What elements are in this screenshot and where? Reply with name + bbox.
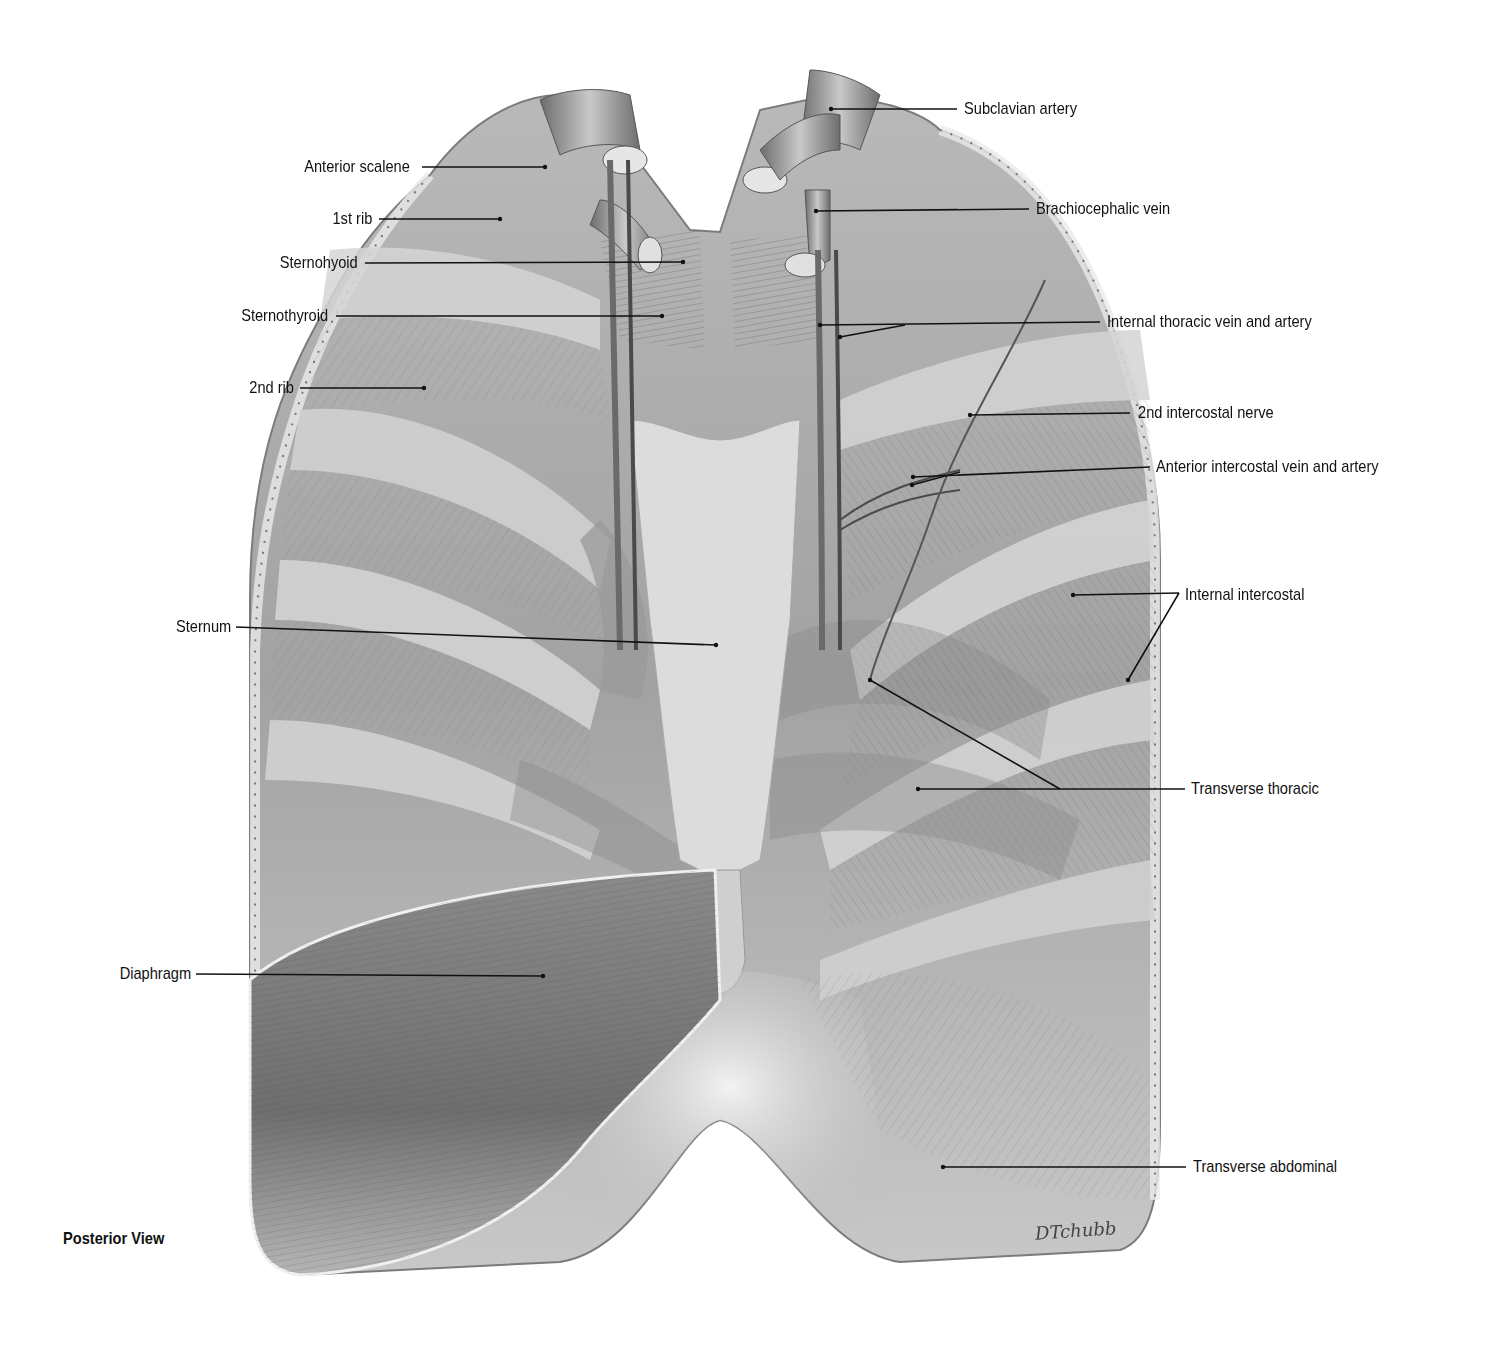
label-sternum: Sternum bbox=[176, 617, 231, 637]
label-brachiocephalic-vein: Brachiocephalic vein bbox=[1036, 199, 1170, 219]
label-2nd-rib: 2nd rib bbox=[249, 378, 294, 398]
label-subclavian-artery: Subclavian artery bbox=[964, 99, 1077, 119]
label-1st-rib: 1st rib bbox=[332, 209, 372, 229]
label-internal-intercostal: Internal intercostal bbox=[1185, 585, 1304, 605]
label-internal-thoracic-vein-artery: Internal thoracic vein and artery bbox=[1107, 312, 1312, 332]
label-transverse-thoracic: Transverse thoracic bbox=[1191, 779, 1319, 799]
label-sternothyroid: Sternothyroid bbox=[241, 306, 328, 326]
sternohyoid-right bbox=[730, 235, 820, 350]
label-transverse-abdominal: Transverse abdominal bbox=[1193, 1157, 1337, 1177]
label-sternohyoid: Sternohyoid bbox=[280, 253, 358, 273]
label-diaphragm: Diaphragm bbox=[119, 964, 191, 984]
label-anterior-scalene: Anterior scalene bbox=[304, 157, 410, 177]
label-2nd-intercostal-nerve: 2nd intercostal nerve bbox=[1138, 403, 1274, 423]
view-caption: Posterior View bbox=[63, 1229, 164, 1249]
label-anterior-intercostal-vein-artery: Anterior intercostal vein and artery bbox=[1156, 457, 1379, 477]
thoracic-wall-illustration bbox=[0, 0, 1494, 1358]
